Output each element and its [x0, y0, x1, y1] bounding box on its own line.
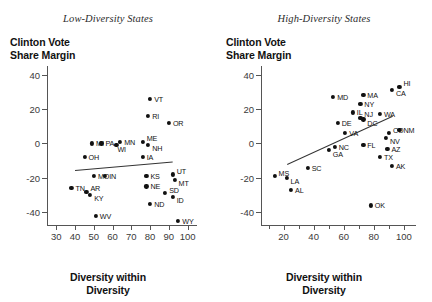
data-point-label: TX: [384, 153, 393, 162]
y-tick-label: 20: [29, 104, 40, 115]
data-point: [272, 174, 276, 178]
data-point-label: DC: [367, 118, 377, 127]
data-point: [361, 143, 365, 147]
plot-area: 40200-20-4020406080100HICAMAMDNYILNJDCWA…: [261, 66, 416, 226]
x-tick-label: 70: [126, 231, 137, 242]
y-tick: [42, 212, 47, 213]
x-tick: [359, 226, 360, 229]
data-point-label: IA: [147, 153, 154, 162]
data-point: [69, 186, 73, 190]
x-axis-title-line2: Diversity: [0, 284, 216, 297]
data-point-label: MD: [337, 92, 348, 101]
data-point: [378, 112, 382, 116]
data-point: [141, 155, 145, 159]
data-point: [385, 146, 389, 150]
y-tick: [256, 178, 261, 179]
y-tick: [256, 212, 261, 213]
data-point: [146, 143, 150, 147]
data-point: [118, 140, 122, 144]
data-point: [289, 188, 293, 192]
y-tick: [256, 143, 261, 144]
data-point-label: KS: [150, 172, 159, 181]
x-tick: [389, 226, 390, 229]
y-tick: [42, 178, 47, 179]
plot-area: 40200-20-4030405060708090100VTRIORMIPAWI…: [47, 66, 197, 226]
data-point-label: UT: [177, 167, 186, 176]
data-point: [171, 195, 175, 199]
data-point-label: ND: [154, 199, 164, 208]
y-axis-line: [47, 66, 48, 226]
x-tick-label: 80: [145, 231, 156, 242]
x-tick: [94, 226, 95, 230]
data-point: [361, 117, 365, 121]
x-tick: [269, 226, 270, 229]
y-axis-line: [261, 66, 262, 226]
data-point: [171, 172, 175, 176]
data-point: [82, 155, 86, 159]
data-point: [144, 184, 148, 188]
data-point-label: WA: [384, 110, 395, 119]
x-tick: [169, 226, 170, 230]
y-axis-title: Clinton Vote Share Margin: [10, 36, 75, 61]
data-point-label: RI: [152, 111, 159, 120]
data-point-label: SC: [312, 163, 322, 172]
y-tick-label: 40: [243, 69, 254, 80]
y-tick-label: 20: [243, 104, 254, 115]
data-point: [327, 148, 331, 152]
y-tick: [256, 109, 261, 110]
x-tick: [131, 226, 132, 230]
data-point: [387, 131, 391, 135]
data-point: [144, 174, 148, 178]
data-point-label: ME: [147, 134, 158, 143]
x-tick: [329, 226, 330, 229]
x-tick-label: 30: [51, 231, 62, 242]
data-point-label: AK: [396, 161, 405, 170]
data-point-label: KY: [94, 194, 103, 203]
data-point: [172, 177, 176, 181]
data-point: [284, 176, 288, 180]
x-tick: [188, 226, 189, 230]
trend-line: [75, 161, 173, 171]
data-point-label: AR: [90, 184, 100, 193]
x-axis-title: Diversity within Diversity: [216, 271, 432, 296]
data-point: [343, 131, 347, 135]
y-tick-label: -40: [26, 207, 40, 218]
x-tick-label: 60: [338, 231, 349, 242]
y-tick-label: -20: [26, 172, 40, 183]
y-tick-label: 40: [29, 69, 40, 80]
panel-title: Low-Diversity States: [0, 13, 216, 24]
data-point-label: NC: [339, 142, 349, 151]
x-tick-label: 40: [70, 231, 81, 242]
data-point: [384, 136, 388, 140]
y-axis-title: Clinton Vote Share Margin: [226, 36, 291, 61]
y-tick-label: 0: [249, 138, 254, 149]
x-axis-title-line1: Diversity within: [0, 271, 216, 284]
y-tick: [42, 109, 47, 110]
y-tick: [42, 143, 47, 144]
data-point: [94, 214, 98, 218]
panel-high-diversity: High-Diversity States Clinton Vote Share…: [216, 0, 432, 302]
data-point-label: IN: [109, 172, 116, 181]
data-point-label: ID: [177, 195, 184, 204]
x-axis-title-line2: Diversity: [216, 284, 432, 297]
y-tick-label: -20: [240, 172, 254, 183]
x-axis-title: Diversity within Diversity: [0, 271, 216, 296]
data-point: [351, 110, 355, 114]
x-tick: [404, 226, 405, 230]
x-tick-label: 100: [180, 231, 196, 242]
y-axis-title-line2: Share Margin: [10, 49, 75, 62]
y-tick-label: -40: [240, 207, 254, 218]
data-point: [148, 202, 152, 206]
data-point-label: OR: [173, 118, 184, 127]
x-tick-label: 50: [89, 231, 100, 242]
data-point-label: VT: [154, 94, 163, 103]
y-tick: [42, 75, 47, 76]
x-tick-label: 80: [369, 231, 380, 242]
data-point-label: PA: [105, 139, 114, 148]
data-point: [336, 121, 340, 125]
data-point-label: CO: [393, 125, 404, 134]
x-tick-label: 90: [164, 231, 175, 242]
x-tick: [344, 226, 345, 230]
data-point-label: OK: [375, 201, 385, 210]
data-point: [390, 88, 394, 92]
